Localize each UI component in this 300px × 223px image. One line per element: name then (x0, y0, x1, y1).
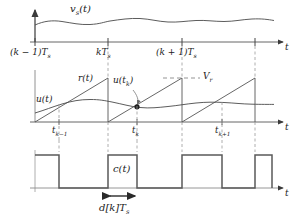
u-tk-pointer-arrow (133, 90, 138, 104)
ct-label: c(t) (113, 164, 130, 174)
vs-label: vs(t) (70, 4, 91, 17)
gate-pulse-train-ct (35, 155, 272, 188)
crossing-label-tk: tk (132, 126, 139, 137)
tick-label-kp1Ts: (k + 1)Ts (156, 48, 197, 59)
vs-waveform (35, 18, 274, 25)
u-tk-label: u(tk) (113, 76, 133, 87)
tick-label-kTs: kTs (96, 48, 111, 59)
middle-axis-label-t: t (285, 123, 289, 132)
bottom-axis-label-t: t (285, 189, 289, 198)
rt-label: r(t) (78, 74, 93, 83)
ut-label: u(t) (36, 95, 52, 104)
crossing-label-tk-1: tk−1 (52, 126, 67, 137)
top-axis-label-t: t (285, 43, 289, 52)
figure-canvas (0, 0, 300, 223)
tick-label-km1Ts: (k − 1)Ts (10, 48, 51, 59)
crossing-label-tk1: tk+1 (215, 126, 230, 137)
top-panel-group (30, 10, 283, 46)
bottom-panel-group (30, 150, 283, 196)
pwm-timing-figure: vs(t) t (k − 1)Ts kTs (k + 1)Ts u(t) r(t… (0, 0, 300, 223)
vr-label: Vr (203, 72, 212, 83)
middle-panel-group (30, 70, 283, 140)
control-signal-ut (35, 100, 274, 114)
duty-cycle-label: d[k]Ts (99, 203, 129, 216)
